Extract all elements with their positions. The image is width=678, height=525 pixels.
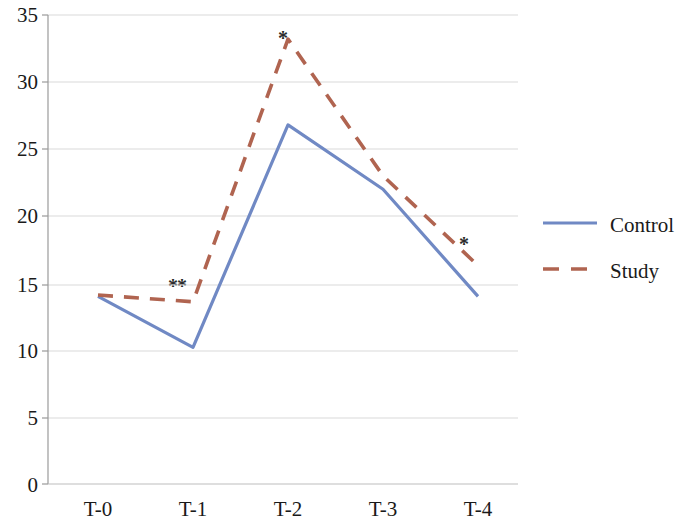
legend-swatches — [543, 223, 597, 269]
series-line-control — [98, 125, 478, 347]
plot-canvas — [0, 0, 678, 525]
series-line-study — [98, 39, 478, 302]
line-chart: 35 30 25 20 15 10 5 0 T-0 T-1 T-2 T-3 T-… — [0, 0, 678, 525]
gridlines — [48, 15, 518, 418]
y-axis-ticks — [42, 15, 48, 484]
data-series-layer — [98, 39, 478, 347]
